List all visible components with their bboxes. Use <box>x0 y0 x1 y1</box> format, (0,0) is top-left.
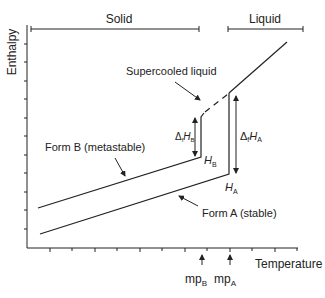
enthalpy-temperature-diagram: Enthalpy Temperature Solid Liquid Superc… <box>0 0 325 298</box>
x-axis-label: Temperature <box>255 257 323 271</box>
solid-bracket <box>31 26 199 32</box>
supercooled-pointer-arrow <box>175 82 200 100</box>
h-b-label: HB <box>204 154 217 168</box>
form-b-pointer-arrow <box>115 158 125 176</box>
y-axis-label: Enthalpy <box>5 29 19 76</box>
liquid-line <box>229 42 287 93</box>
h-a-label: HA <box>225 181 238 195</box>
form-a-pointer-arrow <box>179 196 198 206</box>
mp-b-label: mpB <box>185 272 207 288</box>
delta-h-b-label: ΔfHB <box>175 131 195 143</box>
form-b-curve <box>38 113 204 208</box>
form-a-curve <box>40 93 229 234</box>
liquid-label: Liquid <box>249 12 281 26</box>
supercooled-liquid-label: Supercooled liquid <box>126 65 217 77</box>
liquid-bracket <box>228 26 303 32</box>
solid-label: Solid <box>106 12 133 26</box>
delta-h-a-label: ΔfHA <box>240 130 262 143</box>
mp-a-label: mpA <box>214 272 237 288</box>
form-b-label: Form B (metastable) <box>45 141 145 153</box>
supercooled-liquid-dashed <box>205 94 228 112</box>
form-a-label: Form A (stable) <box>202 207 277 219</box>
